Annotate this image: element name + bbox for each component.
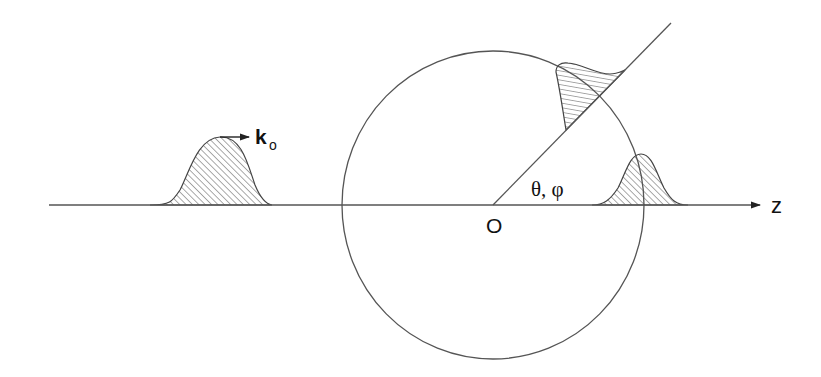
scattered-wave-packet <box>556 63 625 130</box>
z-axis-label: z <box>771 193 782 218</box>
angle-label: θ, φ <box>531 177 564 201</box>
scattering-diagram: k o θ, φ O z <box>0 0 821 377</box>
wave-vector-subscript: o <box>269 137 277 153</box>
incident-wave-packet <box>150 137 272 205</box>
transmitted-wave-packet <box>592 154 688 205</box>
wave-vector-label: k <box>255 125 267 148</box>
origin-label: O <box>486 214 502 237</box>
